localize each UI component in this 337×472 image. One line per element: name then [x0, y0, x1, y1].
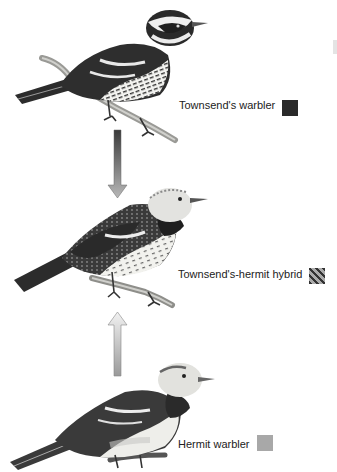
swatch-hybrid	[309, 268, 325, 284]
down-arrow-icon	[108, 130, 127, 198]
swatch-hermit-warbler	[257, 435, 273, 451]
diagram-canvas	[0, 0, 337, 472]
swatch-townsends-warbler	[282, 100, 298, 116]
label-hybrid: Townsend's-hermit hybrid	[178, 268, 302, 280]
hermit-warbler-illustration	[10, 363, 215, 470]
label-townsends-warbler: Townsend's warbler	[179, 99, 275, 111]
label-hermit-warbler: Hermit warbler	[178, 438, 250, 450]
townsends-warbler-illustration	[15, 10, 208, 140]
edge-mark	[333, 40, 337, 54]
hybrid-warbler-illustration	[14, 188, 208, 306]
up-arrow-icon	[108, 312, 127, 376]
